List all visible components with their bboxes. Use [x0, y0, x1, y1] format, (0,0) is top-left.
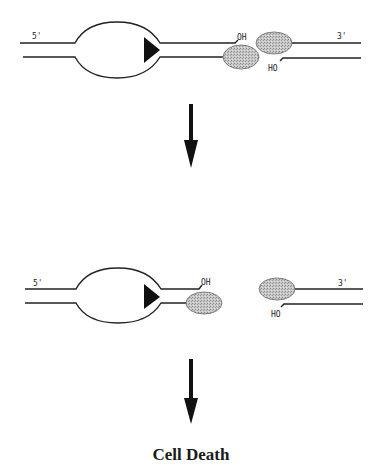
protein-blob-left: [186, 292, 222, 314]
polymerase-triangle-icon: [144, 284, 160, 309]
label-ho: HO: [268, 64, 278, 73]
outcome-label: Cell Death: [153, 445, 231, 464]
label-ho: HO: [271, 310, 281, 319]
polymerase-triangle-icon: [144, 37, 160, 63]
label-5prime: 5': [32, 32, 42, 41]
label-3prime: 3': [337, 32, 347, 41]
down-arrow-2-icon: [184, 359, 198, 424]
protein-blob-lower: [223, 45, 259, 69]
panel-2: 5' OH 3' HO: [25, 268, 363, 323]
label-oh: OH: [201, 278, 211, 287]
panel-1: 5' OH 3' HO: [20, 22, 361, 78]
bottom-strand-right: [281, 304, 363, 307]
bottom-strand-left: [23, 57, 225, 78]
top-strand-left: [20, 22, 238, 43]
label-3prime: 3': [338, 279, 348, 288]
protein-blob-right: [259, 278, 295, 300]
protein-blob-upper: [256, 32, 292, 54]
diagram-canvas: 5' OH 3' HO 5' OH 3' HO Cell Death: [0, 0, 382, 474]
label-oh: OH: [237, 33, 247, 42]
down-arrow-1-icon: [184, 104, 198, 168]
label-5prime: 5': [33, 279, 43, 288]
bottom-strand-right: [280, 58, 361, 61]
bottom-strand-left: [25, 303, 190, 323]
top-strand-left: [25, 268, 202, 289]
